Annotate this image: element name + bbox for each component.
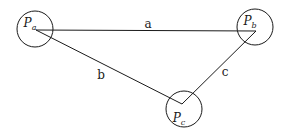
diagram-canvas: PaPbPc abc [0, 0, 288, 131]
triangle-diagram: PaPbPc abc [0, 0, 288, 131]
edge-label-c: c [222, 65, 229, 79]
node-label: Pb [242, 14, 256, 30]
edge-label-a: a [144, 17, 151, 31]
node-label: Pa [23, 16, 37, 32]
node-pa: Pa [17, 11, 53, 47]
edge-label-b: b [97, 68, 105, 82]
edge-labels: abc [97, 17, 228, 82]
edge-b [36, 30, 182, 104]
node-label: Pc [172, 111, 186, 127]
node-pc: Pc [166, 91, 202, 127]
node-pb: Pb [237, 9, 273, 45]
